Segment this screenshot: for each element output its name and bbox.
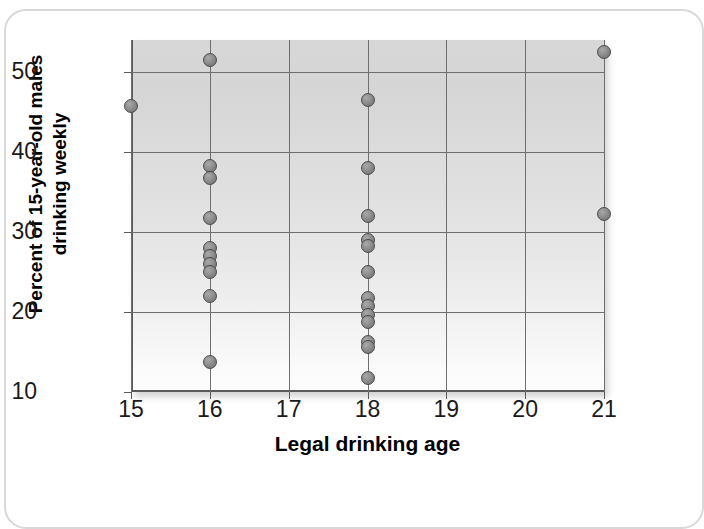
data-point	[361, 315, 375, 329]
gridline-x-19	[446, 40, 447, 392]
gridline-x-20	[525, 40, 526, 392]
data-point	[597, 207, 611, 221]
y-tick-label-30: 30	[0, 218, 37, 245]
y-tick-label-10: 10	[0, 378, 37, 405]
x-tick-mark-19	[446, 392, 447, 399]
data-point	[361, 161, 375, 175]
x-axis-title: Legal drinking age	[131, 432, 604, 456]
x-tick-label-19: 19	[416, 396, 476, 423]
gridline-x-17	[289, 40, 290, 392]
x-tick-mark-17	[289, 392, 290, 399]
data-point	[203, 211, 217, 225]
plot-area	[131, 40, 604, 392]
x-tick-label-15: 15	[101, 396, 161, 423]
data-point	[361, 93, 375, 107]
y-tick-label-20: 20	[0, 298, 37, 325]
x-tick-label-16: 16	[180, 396, 240, 423]
data-point	[361, 371, 375, 385]
x-tick-label-18: 18	[338, 396, 398, 423]
data-point	[203, 265, 217, 279]
y-tick-label-40: 40	[0, 138, 37, 165]
y-tick-mark-30	[124, 232, 132, 233]
data-point	[203, 289, 217, 303]
x-tick-mark-15	[131, 392, 132, 399]
y-tick-mark-40	[124, 152, 132, 153]
data-point	[361, 209, 375, 223]
data-point	[124, 99, 138, 113]
y-tick-mark-20	[124, 312, 132, 313]
gridline-y-40	[131, 152, 604, 153]
y-tick-mark-50	[124, 72, 132, 73]
x-tick-label-21: 21	[574, 396, 634, 423]
data-point	[203, 53, 217, 67]
x-tick-mark-21	[604, 392, 605, 399]
y-tick-label-50: 50	[0, 58, 37, 85]
x-tick-mark-18	[368, 392, 369, 399]
data-point	[361, 265, 375, 279]
x-tick-mark-20	[525, 392, 526, 399]
data-point	[361, 340, 375, 354]
gridline-x-15	[131, 40, 132, 392]
data-point	[597, 45, 611, 59]
x-tick-mark-16	[210, 392, 211, 399]
x-tick-label-20: 20	[495, 396, 555, 423]
x-tick-label-17: 17	[259, 396, 319, 423]
data-point	[203, 171, 217, 185]
data-point	[361, 239, 375, 253]
data-point	[203, 355, 217, 369]
gridline-y-50	[131, 72, 604, 73]
